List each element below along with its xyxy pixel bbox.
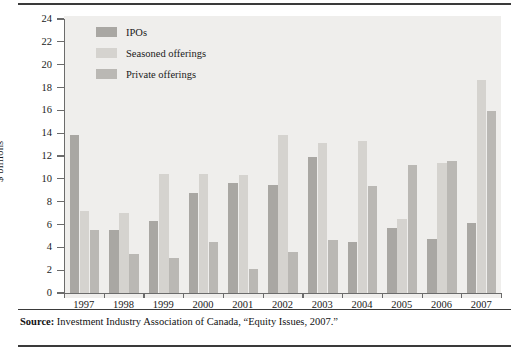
- bar: [249, 269, 259, 293]
- y-axis-tick-label: 10: [26, 174, 52, 184]
- bar: [477, 80, 487, 293]
- x-axis-tick: [302, 293, 303, 298]
- y-axis-tick-label: 16: [26, 105, 52, 115]
- y-axis-tick-label: 24: [26, 14, 52, 24]
- x-axis-tick-label: 2000: [181, 299, 225, 310]
- x-axis-tick-label: 2005: [380, 299, 424, 310]
- bar: [368, 186, 378, 293]
- y-axis-tick: [57, 18, 64, 19]
- legend-item-label: IPOs: [126, 27, 147, 38]
- bar: [199, 174, 209, 293]
- x-axis-tick: [104, 293, 105, 298]
- y-axis-tick-label: 2: [26, 265, 52, 275]
- x-axis-tick-label: 2001: [221, 299, 265, 310]
- bar: [189, 193, 199, 293]
- y-axis-tick: [57, 155, 64, 156]
- x-axis-tick-label: 1999: [141, 299, 185, 310]
- y-axis-tick: [57, 201, 64, 202]
- x-axis-tick-label: 2006: [419, 299, 463, 310]
- y-axis-tick: [57, 110, 64, 111]
- bar: [119, 213, 129, 293]
- y-axis-tick-label: 18: [26, 83, 52, 93]
- bar: [288, 252, 298, 293]
- bar: [387, 228, 397, 293]
- x-axis-tick: [143, 293, 144, 298]
- y-axis-tick: [57, 64, 64, 65]
- y-axis-tick: [57, 224, 64, 225]
- legend-swatch-icon: [96, 27, 117, 37]
- y-axis-tick-label: 6: [26, 220, 52, 230]
- x-axis-tick-label: 1998: [102, 299, 146, 310]
- figure-container: 024681012141618202224 $ billions 1997199…: [0, 0, 529, 354]
- bar: [268, 185, 278, 293]
- y-axis-title: $ billions: [0, 141, 5, 182]
- y-axis-tick: [57, 41, 64, 42]
- y-axis-tick-label: 14: [26, 128, 52, 138]
- bar: [159, 174, 169, 293]
- y-axis-tick-labels: 024681012141618202224: [0, 0, 56, 354]
- x-axis-tick: [422, 293, 423, 298]
- bar: [437, 163, 447, 293]
- x-axis-tick-label: 2003: [300, 299, 344, 310]
- bar: [318, 143, 328, 293]
- y-axis-tick: [57, 247, 64, 248]
- source-caption: Source: Investment Industry Association …: [20, 316, 338, 327]
- bar: [90, 230, 100, 293]
- y-axis-tick: [57, 87, 64, 88]
- y-axis-tick-label: 12: [26, 151, 52, 161]
- x-axis-tick: [183, 293, 184, 298]
- bar: [408, 165, 418, 293]
- bar: [239, 175, 249, 293]
- bar: [467, 223, 477, 293]
- x-axis-tick: [501, 293, 502, 298]
- x-axis-tick-label: 1997: [62, 299, 106, 310]
- x-axis-line: [64, 293, 501, 294]
- y-axis-tick: [57, 292, 64, 293]
- x-axis-tick-label: 2007: [459, 299, 503, 310]
- legend-swatch-icon: [96, 69, 117, 79]
- x-axis-tick: [342, 293, 343, 298]
- x-axis-tick: [223, 293, 224, 298]
- x-axis-tick: [64, 293, 65, 298]
- y-axis-tick-label: 0: [26, 288, 52, 298]
- legend-item-label: Seasoned offerings: [126, 48, 206, 59]
- x-axis-tick: [263, 293, 264, 298]
- top-rule: [18, 3, 511, 5]
- bar: [427, 239, 437, 293]
- legend-item-label: Private offerings: [126, 69, 196, 80]
- footer-rule: [18, 345, 511, 347]
- legend-item: Seasoned offerings: [96, 45, 206, 61]
- y-axis-tick-label: 20: [26, 60, 52, 70]
- bar: [209, 242, 219, 293]
- bar: [169, 258, 179, 293]
- legend-swatch-icon: [96, 48, 117, 58]
- source-label: Source:: [20, 316, 54, 327]
- bar: [397, 219, 407, 293]
- y-axis-tick-label: 22: [26, 37, 52, 47]
- legend-item: Private offerings: [96, 66, 206, 82]
- bar: [447, 161, 457, 293]
- x-axis-tick-label: 2004: [340, 299, 384, 310]
- source-text: Investment Industry Association of Canad…: [54, 316, 338, 327]
- y-axis-tick: [57, 270, 64, 271]
- y-axis-tick-label: 8: [26, 197, 52, 207]
- legend-item: IPOs: [96, 24, 206, 40]
- bar: [358, 141, 368, 293]
- x-axis-tick-label: 2002: [261, 299, 305, 310]
- bar: [487, 111, 497, 293]
- bar: [228, 183, 238, 293]
- bar: [328, 240, 338, 293]
- bar: [109, 230, 119, 293]
- y-axis-tick: [57, 178, 64, 179]
- y-axis-tick: [57, 133, 64, 134]
- bar: [129, 254, 139, 293]
- x-axis-tick: [461, 293, 462, 298]
- x-axis-tick: [382, 293, 383, 298]
- bar: [70, 135, 80, 293]
- bar: [348, 242, 358, 293]
- bar: [278, 135, 288, 293]
- bar: [149, 221, 159, 293]
- bar: [308, 157, 318, 293]
- bar: [80, 211, 90, 293]
- y-axis-tick-label: 4: [26, 242, 52, 252]
